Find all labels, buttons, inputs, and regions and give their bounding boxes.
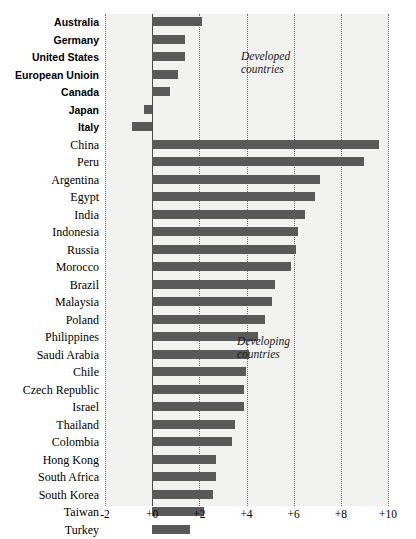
bar-australia [152, 17, 202, 26]
bar-label-czech-republic: Czech Republic [0, 382, 99, 400]
bar-poland [152, 315, 265, 324]
bar-label-thailand: Thailand [0, 417, 99, 435]
bar-row: Canada [0, 84, 416, 102]
bar-label-japan: Japan [0, 102, 99, 120]
bar-south-africa [152, 472, 216, 481]
bar-row: Saudi Arabia [0, 347, 416, 365]
bar-row: Argentina [0, 172, 416, 190]
bar-row: Brazil [0, 277, 416, 295]
bar-chile [152, 367, 246, 376]
bar-peru [152, 157, 364, 166]
bar-label-israel: Israel [0, 399, 99, 417]
bar-row: South Korea [0, 487, 416, 505]
bar-row: South Africa [0, 469, 416, 487]
bar-label-argentina: Argentina [0, 172, 99, 190]
x-axis: -2+0+2+4+6+8+10 [0, 506, 416, 530]
bar-indonesia [152, 227, 298, 236]
bar-label-russia: Russia [0, 242, 99, 260]
bar-row: Germany [0, 32, 416, 50]
bar-row: European Unioin [0, 67, 416, 85]
bar-label-colombia: Colombia [0, 434, 99, 452]
bar-label-peru: Peru [0, 154, 99, 172]
annotation-developed-countries: Developed countries [241, 50, 290, 76]
bar-label-italy: Italy [0, 119, 99, 137]
bar-row: China [0, 137, 416, 155]
x-tick-label: -2 [100, 508, 110, 520]
bar-label-saudi-arabia: Saudi Arabia [0, 347, 99, 365]
bar-label-indonesia: Indonesia [0, 224, 99, 242]
bar-row: Indonesia [0, 224, 416, 242]
bar-israel [152, 402, 244, 411]
bar-south-korea [152, 490, 213, 499]
x-tick-label: +10 [379, 508, 397, 520]
bar-row: India [0, 207, 416, 225]
bar-label-chile: Chile [0, 364, 99, 382]
bar-argentina [152, 175, 319, 184]
bar-label-poland: Poland [0, 312, 99, 330]
bar-row: Colombia [0, 434, 416, 452]
bar-germany [152, 35, 185, 44]
bar-label-morocco: Morocco [0, 259, 99, 277]
bar-row: United States [0, 49, 416, 67]
bar-united-states [152, 52, 185, 61]
bar-colombia [152, 437, 232, 446]
x-tick-label: +6 [288, 508, 300, 520]
bar-row: Egypt [0, 189, 416, 207]
bar-morocco [152, 262, 291, 271]
bar-label-egypt: Egypt [0, 189, 99, 207]
bar-india [152, 210, 305, 219]
bar-rows: AustraliaGermanyUnited StatesEuropean Un… [0, 14, 416, 506]
annotation-developing-countries: Developing countries [237, 335, 290, 361]
bar-brazil [152, 280, 275, 289]
bar-label-south-africa: South Africa [0, 469, 99, 487]
bar-label-australia: Australia [0, 14, 99, 32]
bar-russia [152, 245, 296, 254]
bar-malaysia [152, 297, 272, 306]
bar-row: Czech Republic [0, 382, 416, 400]
bar-canada [152, 87, 170, 96]
bar-label-malaysia: Malaysia [0, 294, 99, 312]
bar-label-india: India [0, 207, 99, 225]
bar-label-brazil: Brazil [0, 277, 99, 295]
bar-row: Poland [0, 312, 416, 330]
bar-row: Japan [0, 102, 416, 120]
bar-saudi-arabia [152, 350, 249, 359]
bar-row: Israel [0, 399, 416, 417]
bar-italy [132, 122, 152, 131]
bar-row: Australia [0, 14, 416, 32]
bar-label-germany: Germany [0, 32, 99, 50]
bar-european-unioin [152, 70, 178, 79]
x-tick-label: +4 [240, 508, 252, 520]
bar-china [152, 140, 378, 149]
bar-row: Thailand [0, 417, 416, 435]
bar-hong-kong [152, 455, 216, 464]
bar-egypt [152, 192, 315, 201]
bar-label-canada: Canada [0, 84, 99, 102]
bar-row: Chile [0, 364, 416, 382]
bar-row: Russia [0, 242, 416, 260]
bar-japan [144, 105, 152, 114]
bar-czech-republic [152, 385, 244, 394]
x-tick-label: +8 [335, 508, 347, 520]
bar-label-china: China [0, 137, 99, 155]
bar-thailand [152, 420, 235, 429]
bar-chart: AustraliaGermanyUnited StatesEuropean Un… [0, 0, 416, 539]
bar-label-european-unioin: European Unioin [0, 67, 99, 85]
bar-row: Morocco [0, 259, 416, 277]
x-tick-label: +0 [146, 508, 158, 520]
bar-row: Malaysia [0, 294, 416, 312]
bar-label-hong-kong: Hong Kong [0, 452, 99, 470]
bar-row: Peru [0, 154, 416, 172]
bar-label-philippines: Philippines [0, 329, 99, 347]
bar-label-united-states: United States [0, 49, 99, 67]
bar-row: Hong Kong [0, 452, 416, 470]
bar-row: Italy [0, 119, 416, 137]
bar-label-south-korea: South Korea [0, 487, 99, 505]
bar-row: Philippines [0, 329, 416, 347]
x-tick-label: +2 [193, 508, 205, 520]
